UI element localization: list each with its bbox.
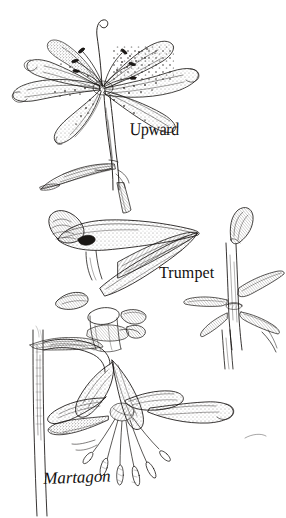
illustration-plate: Upward Trumpet Martagon [0, 0, 286, 518]
label-martagon: Martagon [43, 467, 111, 487]
label-upward: Upward [129, 120, 179, 138]
botanical-illustration-canvas [0, 0, 286, 518]
figure-trumpet [30, 183, 284, 352]
figure-martagon [33, 325, 277, 516]
label-trumpet: Trumpet [159, 264, 214, 281]
figure-upward [12, 20, 199, 190]
